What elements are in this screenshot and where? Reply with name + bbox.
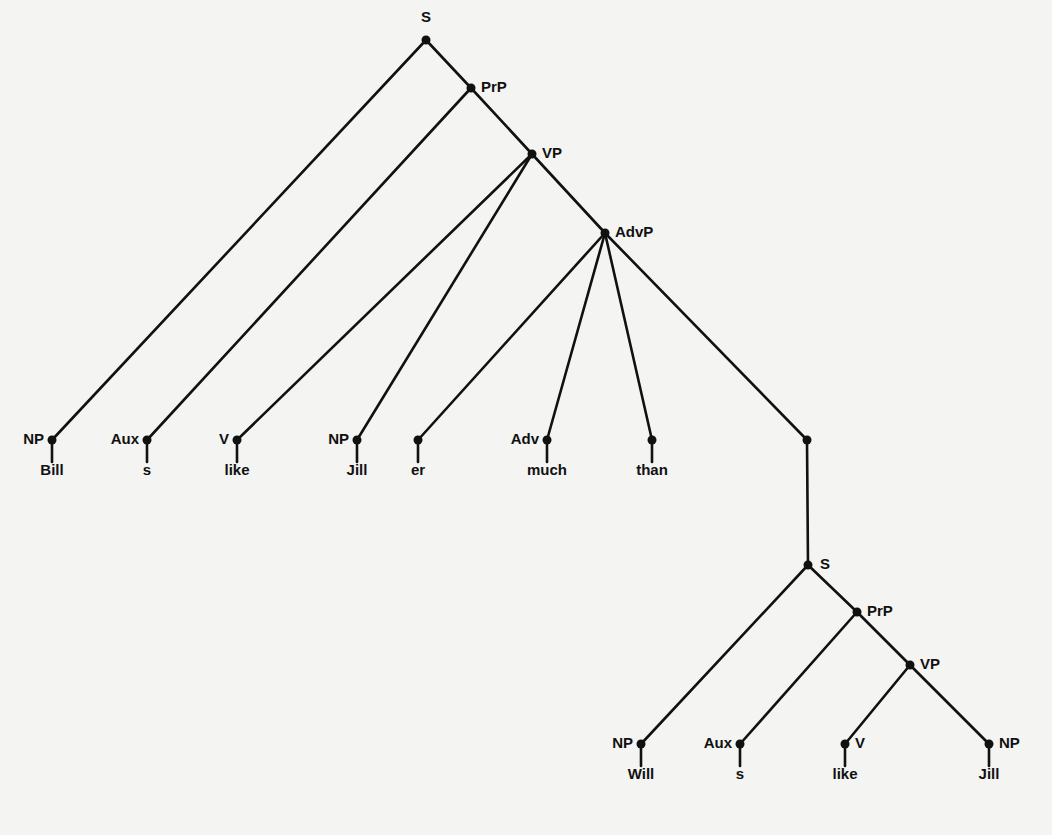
- node-label: Aux: [111, 430, 140, 447]
- syntax-tree-diagram: SPrPVPAdvPNPAuxVNPAdvSPrPVPNPAuxVNP Bill…: [0, 0, 1052, 835]
- tree-edge: [857, 612, 910, 665]
- leaf-word: than: [636, 461, 668, 478]
- node-label: Aux: [704, 734, 733, 751]
- tree-node-dot: [422, 36, 431, 45]
- tree-node-dot: [803, 436, 812, 445]
- tree-node-dot: [143, 436, 152, 445]
- node-label: V: [855, 734, 865, 751]
- leaf-word: Will: [628, 765, 655, 782]
- tree-edge: [845, 665, 910, 744]
- tree-edge: [532, 154, 605, 233]
- tree-edge: [52, 40, 426, 440]
- tree-node-dot: [601, 229, 610, 238]
- node-label: NP: [999, 734, 1020, 751]
- tree-edges: [52, 40, 989, 744]
- node-label: S: [421, 8, 431, 25]
- leaf-word: Bill: [40, 461, 63, 478]
- leaf-word: like: [224, 461, 249, 478]
- tree-edge: [641, 565, 808, 744]
- node-label: NP: [328, 430, 349, 447]
- tree-node-dot: [233, 436, 242, 445]
- tree-node-dot: [48, 436, 57, 445]
- node-label: PrP: [867, 602, 893, 619]
- tree-node-dot: [804, 561, 813, 570]
- node-label: VP: [542, 144, 562, 161]
- tree-edge: [807, 440, 808, 565]
- leaf-word: er: [411, 461, 425, 478]
- leaf-word: s: [143, 461, 151, 478]
- node-label: AdvP: [615, 223, 653, 240]
- tree-node-dot: [853, 608, 862, 617]
- tree-edge: [147, 88, 471, 440]
- node-label: S: [820, 555, 830, 572]
- tree-node-dot: [414, 436, 423, 445]
- leaf-word: s: [736, 765, 744, 782]
- tree-node-dot: [543, 436, 552, 445]
- tree-node-dot: [648, 436, 657, 445]
- tree-node-dot: [906, 661, 915, 670]
- node-label: PrP: [481, 78, 507, 95]
- leaf-word: much: [527, 461, 567, 478]
- node-label: VP: [920, 655, 940, 672]
- tree-node-dot: [467, 84, 476, 93]
- node-label: NP: [23, 430, 44, 447]
- leaf-word: Jill: [979, 765, 1000, 782]
- tree-edge: [605, 233, 807, 440]
- tree-node-dot: [528, 150, 537, 159]
- node-labels: SPrPVPAdvPNPAuxVNPAdvSPrPVPNPAuxVNP: [23, 8, 1020, 751]
- leaf-word: Jill: [347, 461, 368, 478]
- tree-edge: [605, 233, 652, 440]
- tree-edge: [910, 665, 989, 744]
- tree-edge: [808, 565, 857, 612]
- tree-node-dot: [985, 740, 994, 749]
- node-label: Adv: [511, 430, 540, 447]
- tree-node-dot: [736, 740, 745, 749]
- tree-edge: [471, 88, 532, 154]
- tree-canvas: SPrPVPAdvPNPAuxVNPAdvSPrPVPNPAuxVNP Bill…: [0, 0, 1052, 835]
- node-label: NP: [612, 734, 633, 751]
- tree-node-dot: [841, 740, 850, 749]
- leaf-word: like: [832, 765, 857, 782]
- tree-edge: [740, 612, 857, 744]
- tree-edge: [426, 40, 471, 88]
- node-label: V: [219, 430, 229, 447]
- tree-node-dot: [353, 436, 362, 445]
- tree-node-dot: [637, 740, 646, 749]
